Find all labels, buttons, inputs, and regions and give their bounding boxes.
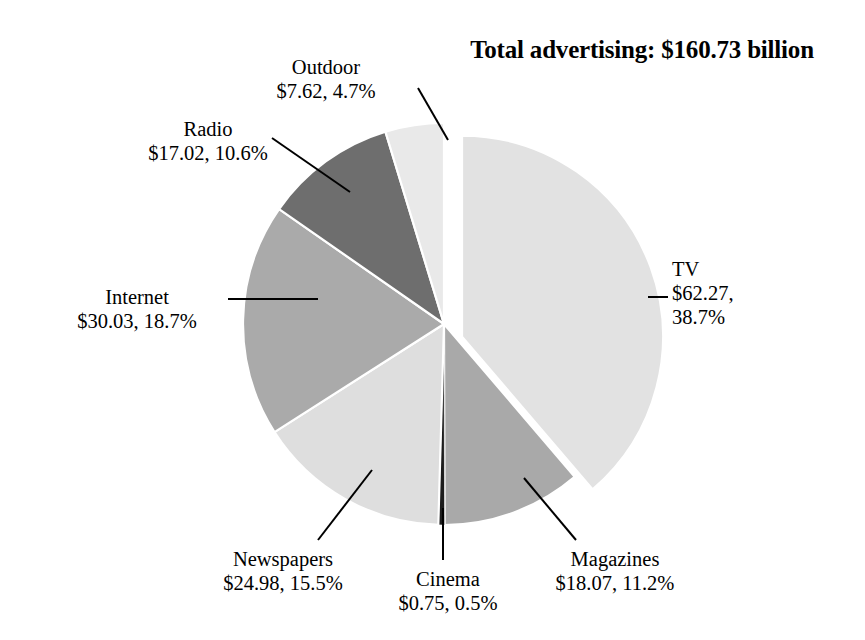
slice-label-outdoor: Outdoor $7.62, 4.7% xyxy=(226,56,426,104)
slice-label-tv-value-line1: $62.27, xyxy=(672,282,822,306)
slice-label-radio-name: Radio xyxy=(108,118,308,142)
slice-label-magazines-name: Magazines xyxy=(510,548,720,572)
slice-label-outdoor-value: $7.62, 4.7% xyxy=(226,80,426,104)
slice-label-tv-name: TV xyxy=(672,258,822,282)
slice-label-magazines-value: $18.07, 11.2% xyxy=(510,572,720,596)
slice-label-radio: Radio $17.02, 10.6% xyxy=(108,118,308,166)
slice-label-internet: Internet $30.03, 18.7% xyxy=(22,286,252,334)
pie-chart-figure: Total advertising: $160.73 billion Outdo… xyxy=(0,0,865,640)
slice-label-magazines: Magazines $18.07, 11.2% xyxy=(510,548,720,596)
slice-label-radio-value: $17.02, 10.6% xyxy=(108,142,308,166)
slice-label-tv: TV $62.27, 38.7% xyxy=(672,258,822,330)
slice-label-internet-name: Internet xyxy=(22,286,252,310)
pie-slices-group xyxy=(243,123,663,525)
slice-label-tv-value-line2: 38.7% xyxy=(672,306,822,330)
slice-label-outdoor-name: Outdoor xyxy=(226,56,426,80)
slice-label-internet-value: $30.03, 18.7% xyxy=(22,310,252,334)
